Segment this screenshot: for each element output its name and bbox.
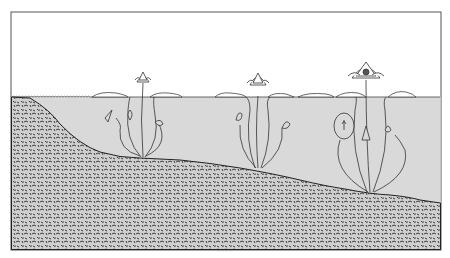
caption: · · · · [0,249,450,254]
pond-illustration [0,0,450,258]
